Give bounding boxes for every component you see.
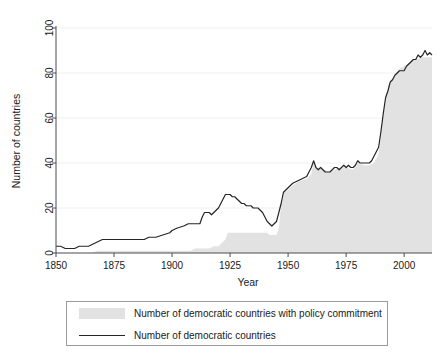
x-tick-label: 2000 (393, 260, 416, 271)
x-tick-label: 1850 (45, 260, 68, 271)
y-tick-label: 60 (44, 112, 55, 124)
y-axis-title: Number of countries (10, 94, 22, 189)
chart-legend: Number of democratic countries with poli… (66, 301, 388, 346)
x-tick-label: 1900 (161, 260, 184, 271)
y-tick-label: 40 (44, 157, 55, 169)
legend-label-democratic-countries: Number of democratic countries (134, 330, 276, 341)
legend-line-swatch-icon (79, 335, 125, 336)
chart-plot-svg: 020406080100 185018751900192519501975200… (0, 0, 447, 290)
y-tick-label: 0 (44, 250, 55, 256)
y-tick-label: 20 (44, 202, 55, 214)
chart-screenshot: 020406080100 185018751900192519501975200… (0, 0, 447, 356)
x-tick-label: 1925 (219, 260, 242, 271)
y-tick-label: 80 (44, 67, 55, 79)
chart-figure: 020406080100 185018751900192519501975200… (0, 0, 447, 290)
y-tick-label: 100 (44, 19, 55, 36)
legend-item-democratic-countries: Number of democratic countries (67, 324, 387, 346)
x-tick-label: 1975 (335, 260, 358, 271)
area-series-policy-commitment (56, 57, 432, 253)
y-axis-ticks: 020406080100 (44, 19, 57, 256)
x-axis-title: Year (237, 276, 259, 288)
x-tick-label: 1950 (277, 260, 300, 271)
x-axis-ticks: 1850187519001925195019752000 (45, 253, 416, 271)
legend-item-policy-commitment: Number of democratic countries with poli… (67, 302, 387, 324)
legend-area-swatch-icon (79, 308, 125, 319)
legend-label-policy-commitment: Number of democratic countries with poli… (134, 308, 382, 319)
x-tick-label: 1875 (103, 260, 126, 271)
